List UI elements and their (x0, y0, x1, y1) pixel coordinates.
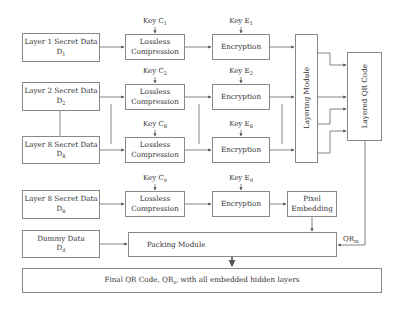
key-c-label: Key C2 (135, 67, 175, 76)
lossless-compression-box: LosslessCompression (125, 84, 185, 110)
input-layer-1: Layer 1 Secret Data D1 (22, 33, 100, 62)
encryption-box: Encryption (212, 34, 270, 60)
key-e-label: Key E9 (221, 174, 261, 183)
lossless-compression-box: LosslessCompression (125, 191, 185, 217)
input-label: Layer 8 Secret Data (24, 194, 97, 204)
key-c-label: Key C1 (135, 17, 175, 26)
key-e-label: Key E2 (221, 67, 261, 76)
qr-m-label: QRm (343, 235, 359, 244)
input-label: Layer 8 Secret Data (24, 140, 97, 150)
final-qr-code-box: Final QR Code, QRs, with all embedded hi… (22, 268, 382, 293)
input-var: D1 (57, 47, 66, 58)
lossless-compression-box: LosslessCompression (125, 34, 185, 60)
input-layer-8: Layer 8 Secret Data D8 (22, 136, 100, 164)
input-label: Layer 2 Secret Data (24, 86, 97, 96)
input-layer-8b: Layer 8 Secret Data D8 (22, 190, 100, 219)
input-label: Dummy Data (37, 234, 85, 244)
input-var: Dd (57, 243, 66, 254)
key-c-label: Key C9 (135, 174, 175, 183)
key-e-label: Key E1 (221, 17, 261, 26)
encryption-box: Encryption (212, 137, 270, 163)
layered-qr-code-box: Layered QR Code (347, 52, 382, 141)
input-var: D2 (57, 96, 66, 107)
encryption-box: Encryption (212, 84, 270, 110)
input-var: D8 (57, 204, 66, 215)
key-c-label: Key C8 (135, 120, 175, 129)
input-var: D8 (57, 149, 66, 160)
input-dummy-data: Dummy Data Dd (22, 230, 100, 258)
input-label: Layer 1 Secret Data (24, 37, 97, 47)
layering-module-box: Layering Module (295, 34, 318, 163)
packing-module-box: Packing Module (128, 232, 337, 257)
key-e-label: Key E8 (221, 120, 261, 129)
encryption-box: Encryption (212, 191, 270, 217)
pixel-embedding-box: PixelEmbedding (287, 191, 337, 217)
input-layer-2: Layer 2 Secret Data D2 (22, 82, 100, 111)
lossless-compression-box: LosslessCompression (125, 137, 185, 163)
